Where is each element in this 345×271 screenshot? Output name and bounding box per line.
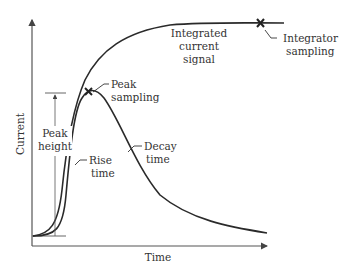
decay-time-label-1: Decay [144, 140, 177, 152]
x-axis-label: Time [145, 251, 172, 263]
integrated-label-3: signal [183, 53, 215, 65]
peak-sampling-label-1: Peak [111, 78, 137, 90]
y-axis-label: Current [14, 112, 26, 155]
peak-height-label-2: height [38, 140, 73, 152]
peak-height-label-1: Peak [42, 127, 68, 139]
integrated-label-2: current [179, 40, 220, 52]
rise-time-label-2: time [91, 167, 115, 179]
integrated-label-1: Integrated [171, 27, 228, 39]
integrator-sampling-leader [265, 30, 277, 38]
integrator-label-1: Integrator [283, 32, 339, 44]
rise-time-leader [75, 160, 87, 165]
peak-sampling-leader [93, 84, 109, 92]
rise-time-label-1: Rise [89, 154, 112, 166]
peak-sampling-marker [85, 88, 92, 95]
diagram-svg: Integrated current signal Integrator sam… [0, 0, 345, 271]
decay-time-label-2: time [146, 153, 170, 165]
integrator-label-2: sampling [286, 45, 335, 57]
pulse-diagram: Integrated current signal Integrator sam… [0, 0, 345, 271]
peak-sampling-label-2: sampling [111, 91, 160, 103]
